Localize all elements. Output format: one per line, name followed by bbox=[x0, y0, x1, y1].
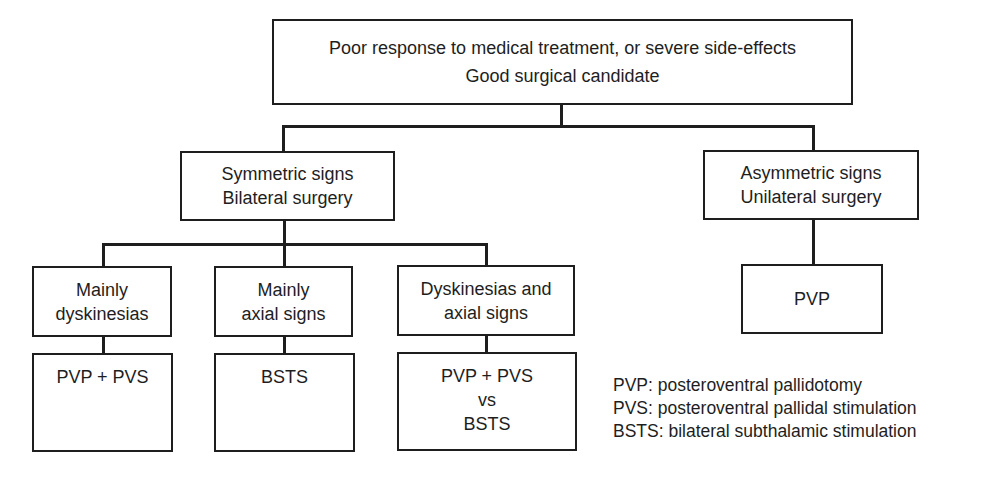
child-2-line-1: Mainly bbox=[257, 278, 309, 302]
connector-to-child-1 bbox=[102, 243, 105, 267]
abbreviation-legend: PVP: posteroventral pallidotomy PVS: pos… bbox=[613, 374, 917, 443]
symmetric-node: Symmetric signs Bilateral surgery bbox=[180, 151, 395, 221]
legend-pvs: PVS: posteroventral pallidal stimulation bbox=[613, 397, 917, 420]
root-line-1: Poor response to medical treatment, or s… bbox=[329, 36, 796, 60]
result-pvp-pvs: PVP + PVS bbox=[32, 353, 173, 452]
result-bsts: BSTS bbox=[214, 353, 355, 452]
result-3-line-3: BSTS bbox=[463, 412, 510, 436]
connector-root-branches bbox=[282, 125, 815, 128]
connector-root-down bbox=[560, 103, 563, 127]
asymmetric-line-2: Unilateral surgery bbox=[740, 185, 881, 209]
asymmetric-line-1: Asymmetric signs bbox=[740, 161, 881, 185]
result-pvp-unilateral: PVP bbox=[741, 264, 883, 334]
connector-child-2-result bbox=[283, 335, 286, 354]
child-3-line-1: Dyskinesias and bbox=[420, 277, 551, 301]
result-1-text: PVP + PVS bbox=[56, 365, 148, 389]
root-line-2: Good surgical candidate bbox=[465, 64, 659, 88]
legend-pvp: PVP: posteroventral pallidotomy bbox=[613, 374, 917, 397]
child-3-line-2: axial signs bbox=[444, 301, 528, 325]
connector-to-symmetric bbox=[282, 125, 285, 152]
result-3-line-1: PVP + PVS bbox=[441, 364, 533, 388]
connector-asymmetric-result bbox=[812, 218, 815, 265]
asymmetric-node: Asymmetric signs Unilateral surgery bbox=[703, 150, 919, 220]
result-3-line-2: vs bbox=[478, 388, 496, 412]
symmetric-line-1: Symmetric signs bbox=[221, 162, 353, 186]
connector-symmetric-children bbox=[102, 243, 488, 246]
root-node: Poor response to medical treatment, or s… bbox=[272, 19, 853, 105]
child-1-line-2: dyskinesias bbox=[55, 302, 148, 326]
symmetric-line-2: Bilateral surgery bbox=[222, 186, 352, 210]
child-1-line-1: Mainly bbox=[76, 278, 128, 302]
connector-child-3-result bbox=[485, 334, 488, 353]
legend-bsts: BSTS: bilateral subthalamic stimulation bbox=[613, 420, 917, 443]
result-4-text: PVP bbox=[794, 287, 830, 311]
connector-symmetric-down bbox=[283, 219, 286, 245]
child-2-line-2: axial signs bbox=[241, 302, 325, 326]
child-dyskinesias-and-axial: Dyskinesias and axial signs bbox=[397, 265, 575, 336]
child-mainly-dyskinesias: Mainly dyskinesias bbox=[32, 266, 172, 337]
result-pvp-pvs-vs-bsts: PVP + PVS vs BSTS bbox=[397, 352, 577, 451]
connector-child-1-result bbox=[102, 335, 105, 354]
connector-to-child-2 bbox=[283, 243, 286, 267]
connector-to-asymmetric bbox=[812, 125, 815, 151]
connector-to-child-3 bbox=[485, 243, 488, 266]
result-2-text: BSTS bbox=[261, 365, 308, 389]
child-mainly-axial-signs: Mainly axial signs bbox=[214, 266, 353, 337]
